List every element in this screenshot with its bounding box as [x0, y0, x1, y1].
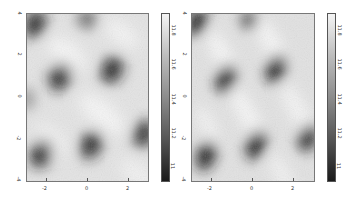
colorbar-tick-label: 11.2	[337, 127, 343, 138]
right-heatmap-image	[192, 14, 315, 182]
colorbar-tick-label: 11.2	[171, 127, 177, 138]
colorbar-tick-label: 11.4	[337, 93, 343, 104]
x-tick-mark	[211, 178, 212, 181]
x-tick-mark	[252, 178, 253, 181]
y-tick-label: 4	[17, 11, 23, 14]
left-colorbar	[161, 13, 170, 182]
right-heatmap-plot	[191, 13, 315, 182]
y-tick-label: -2	[181, 136, 187, 141]
colorbar-tick-label: 11.6	[337, 58, 343, 69]
y-tick-label: -4	[16, 177, 22, 182]
colorbar-tick-label: 11.6	[171, 58, 177, 69]
left-heatmap-panel: -2 0 2 4 2 0 -2 -4 11.8 11.6 11.4 11.2 1…	[0, 0, 180, 201]
right-heatmap-panel: -2 0 2 4 2 0 -2 -4 11.8 11.6 11.4 11.2 1…	[180, 0, 359, 201]
x-tick-mark	[87, 178, 88, 181]
left-heatmap-image	[27, 14, 149, 182]
x-tick-mark	[46, 178, 47, 181]
x-tick-label: 2	[291, 185, 294, 191]
y-tick-label: 4	[182, 11, 188, 14]
left-heatmap-plot	[26, 13, 149, 182]
y-tick-label: 0	[17, 94, 23, 97]
colorbar-tick-label: 11.8	[171, 24, 177, 35]
x-tick-label: -2	[207, 185, 212, 191]
x-tick-label: 0	[85, 185, 88, 191]
x-tick-label: 0	[250, 185, 253, 191]
y-tick-label: -4	[181, 177, 187, 182]
colorbar-tick-label: 11	[170, 163, 176, 169]
x-tick-label: -2	[42, 185, 47, 191]
y-tick-label: 0	[182, 94, 188, 97]
colorbar-tick-label: 11.4	[171, 93, 177, 104]
x-tick-mark	[128, 178, 129, 181]
right-colorbar	[327, 13, 336, 182]
y-tick-label: 2	[182, 52, 188, 55]
y-tick-label: -2	[16, 136, 22, 141]
colorbar-tick-label: 11.8	[337, 24, 343, 35]
colorbar-tick-label: 11	[336, 163, 342, 169]
x-tick-label: 2	[126, 185, 129, 191]
y-tick-label: 2	[17, 52, 23, 55]
x-tick-mark	[293, 178, 294, 181]
